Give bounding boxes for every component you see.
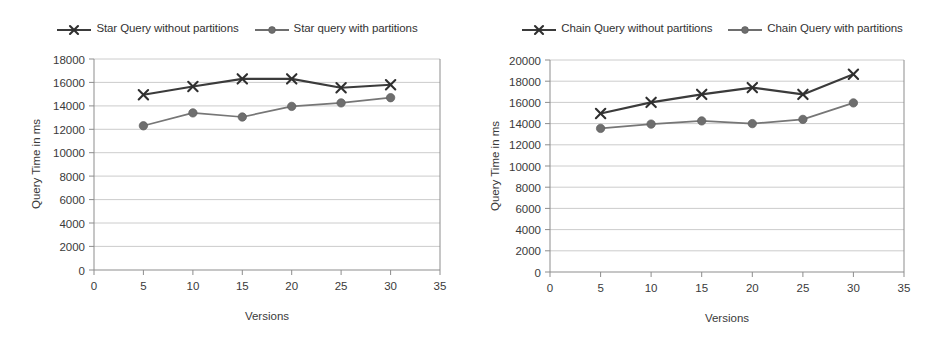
x-tick-label: 35 [898,282,911,294]
y-tick-label: 18000 [53,54,85,66]
x-tick-label: 10 [187,280,200,292]
data-point [698,117,706,125]
y-tick-label: 4000 [515,224,541,236]
y-tick-label: 0 [535,267,541,279]
chain-query-panel: Chain Query without partitions Chain Que… [475,0,950,347]
y-tick-label: 20000 [509,55,541,67]
data-point [139,122,147,130]
dual-line-chart-figure: Star Query without partitions Star query… [0,0,950,347]
star-query-plot: 18000 16000 14000 12000 10000 8000 6000 … [0,0,475,347]
y-axis-title: Query Time in ms [30,119,42,209]
y-tick-marks [545,60,550,272]
y-tick-label: 14000 [53,100,85,112]
x-tick-marks [94,270,440,275]
y-tick-label: 6000 [515,203,541,215]
y-tick-label: 12000 [53,124,85,136]
data-point [849,70,858,79]
y-tick-label: 16000 [53,77,85,89]
x-tick-label: 25 [335,280,348,292]
x-tick-labels: 0 5 10 15 20 25 30 35 [91,280,447,292]
x-tick-label: 0 [547,282,553,294]
y-tick-label: 12000 [509,139,541,151]
x-tick-label: 0 [91,280,97,292]
data-point [189,109,197,117]
data-point [748,119,756,127]
y-tick-label: 8000 [59,171,85,183]
x-tick-label: 20 [285,280,298,292]
data-point [849,99,857,107]
y-axis-title: Query Time in ms [489,121,501,211]
y-tick-label: 6000 [59,194,85,206]
data-point [647,120,655,128]
series-chain-without-partitions [596,70,858,119]
x-tick-label: 5 [140,280,146,292]
y-tick-label: 18000 [509,76,541,88]
chain-query-plot: 20000 18000 16000 14000 12000 10000 8000… [475,0,950,347]
series-star-with-partitions [139,94,395,131]
data-point [288,102,296,110]
x-tick-labels: 0 5 10 15 20 25 30 35 [547,282,911,294]
y-tick-label: 10000 [53,147,85,159]
x-tick-label: 20 [746,282,759,294]
data-point [799,115,807,123]
y-tick-label: 8000 [515,182,541,194]
x-tick-label: 30 [384,280,397,292]
data-point [337,99,345,107]
x-tick-label: 30 [847,282,860,294]
data-point [596,124,604,132]
y-tick-marks [89,59,94,270]
y-tick-labels: 20000 18000 16000 14000 12000 10000 8000… [509,55,541,279]
y-tick-label: 14000 [509,118,541,130]
y-tick-label: 10000 [509,161,541,173]
y-tick-label: 4000 [59,218,85,230]
series-star-without-partitions [139,74,396,99]
data-point [238,113,246,121]
x-tick-label: 15 [236,280,249,292]
x-axis-title: Versions [245,310,289,322]
y-tick-label: 2000 [515,245,541,257]
y-tick-label: 2000 [59,241,85,253]
x-tick-label: 5 [597,282,603,294]
star-query-panel: Star Query without partitions Star query… [0,0,475,347]
star-query-svg: 18000 16000 14000 12000 10000 8000 6000 … [0,0,475,347]
y-tick-label: 16000 [509,97,541,109]
x-tick-label: 10 [645,282,658,294]
series-chain-with-partitions [596,99,857,133]
x-tick-label: 15 [695,282,708,294]
chain-query-svg: 20000 18000 16000 14000 12000 10000 8000… [475,0,950,347]
y-tick-label: 0 [79,265,85,277]
gridlines [550,60,904,251]
x-tick-label: 25 [797,282,810,294]
data-point [386,94,394,102]
y-tick-labels: 18000 16000 14000 12000 10000 8000 6000 … [53,54,85,277]
x-axis-title: Versions [705,312,749,324]
x-tick-label: 35 [434,280,447,292]
x-tick-marks [550,272,904,277]
